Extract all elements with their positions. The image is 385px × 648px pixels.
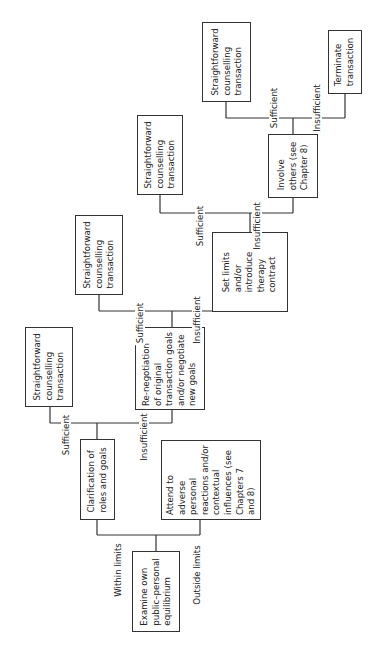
node-set-limits: Set limits and/or introduce therapy cont… bbox=[212, 232, 288, 312]
node-text: Clarification of roles and goals bbox=[86, 447, 109, 512]
node-text: Terminate transaction bbox=[333, 38, 356, 87]
label-insufficient-3: Insufficient bbox=[252, 200, 262, 251]
node-clarification: Clarification of roles and goals bbox=[80, 439, 115, 520]
node-text: Set limits and/or introduce therapy cont… bbox=[221, 252, 279, 293]
node-attend-reactions: Attend to adverse personal reactions and… bbox=[161, 440, 261, 520]
node-terminate: Terminate transaction bbox=[328, 30, 362, 94]
node-straightforward-2: Straightforward counselling transaction bbox=[75, 215, 123, 295]
node-straightforward-4: Straightforward counselling transaction bbox=[202, 22, 251, 102]
node-text: Straightforward counselling transaction bbox=[82, 221, 117, 288]
label-sufficient-3: Sufficient bbox=[195, 204, 205, 248]
label-sufficient-4: Sufficient bbox=[269, 86, 279, 130]
node-text: Straightforward counselling transaction bbox=[143, 121, 178, 188]
label-insufficient-2: Insufficient bbox=[192, 294, 202, 345]
node-text: Re-negotiation of original transaction g… bbox=[141, 331, 199, 405]
node-examine-equilibrium: Examine own public–personal equilibrium bbox=[132, 551, 180, 632]
label-outside-limits: Outside limits bbox=[192, 543, 202, 606]
node-involve-others: Involve others (see Chapter 8) bbox=[268, 134, 318, 198]
label-insufficient-1: Insufficient bbox=[139, 411, 149, 462]
node-text: Involve others (see Chapter 8) bbox=[276, 142, 311, 191]
label-within-limits: Within limits bbox=[113, 541, 123, 598]
label-insufficient-4: Insufficient bbox=[312, 82, 322, 133]
label-sufficient-2: Sufficient bbox=[135, 301, 145, 345]
node-text: Examine own public–personal equilibrium bbox=[139, 558, 174, 625]
label-sufficient-1: Sufficient bbox=[61, 413, 71, 457]
node-text: Straightforward counselling transaction bbox=[32, 333, 67, 400]
node-text: Attend to adverse personal reactions and… bbox=[165, 445, 258, 515]
node-text: Straightforward counselling transaction bbox=[209, 28, 244, 95]
node-straightforward-3: Straightforward counselling transaction bbox=[137, 115, 183, 195]
node-straightforward-1: Straightforward counselling transaction bbox=[25, 327, 73, 407]
